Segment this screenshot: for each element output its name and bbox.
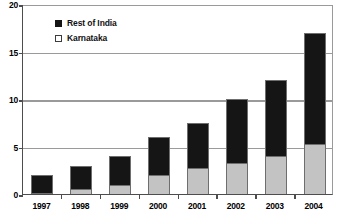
x-tick-mark-4 — [178, 195, 180, 199]
outlined-square-icon — [55, 35, 62, 42]
bar-2002 — [226, 99, 248, 194]
bar-segment-rest-of-india-2001 — [187, 123, 209, 169]
stacked-bar-chart: 20151050 Rest of IndiaKarnataka 19971998… — [0, 0, 340, 221]
bar-2001 — [187, 123, 209, 194]
legend-label: Karnataka — [67, 33, 107, 43]
y-tick-label-20: 20 — [0, 0, 18, 10]
gridline-15 — [23, 53, 332, 55]
bar-segment-karnataka-1997 — [31, 193, 53, 194]
y-tick-mark-20 — [19, 5, 23, 7]
y-tick-mark-15 — [19, 53, 23, 55]
x-tick-mark-5 — [216, 195, 218, 199]
legend: Rest of IndiaKarnataka — [55, 18, 117, 43]
x-tick-label-2004: 2004 — [294, 201, 334, 211]
x-tick-label-2000: 2000 — [138, 201, 178, 211]
x-tick-mark-7 — [294, 195, 296, 199]
x-tick-mark-2 — [100, 195, 102, 199]
bar-segment-rest-of-india-2004 — [304, 33, 326, 144]
bar-segment-karnataka-2003 — [265, 156, 287, 194]
plot-area: Rest of IndiaKarnataka — [22, 5, 333, 195]
bar-1997 — [31, 175, 53, 194]
bar-segment-karnataka-2001 — [187, 168, 209, 194]
y-tick-label-15: 15 — [0, 48, 18, 58]
legend-label: Rest of India — [67, 18, 117, 28]
x-tick-label-1999: 1999 — [99, 201, 139, 211]
bar-2003 — [265, 80, 287, 194]
x-tick-mark-6 — [255, 195, 257, 199]
filled-square-icon — [55, 20, 62, 27]
bar-segment-rest-of-india-2002 — [226, 99, 248, 163]
x-tick-label-2003: 2003 — [255, 201, 295, 211]
bar-segment-rest-of-india-1997 — [31, 175, 53, 193]
bar-segment-karnataka-2000 — [148, 175, 170, 194]
bar-segment-rest-of-india-2003 — [265, 80, 287, 156]
x-tick-label-2002: 2002 — [216, 201, 256, 211]
x-tick-mark-3 — [139, 195, 141, 199]
legend-item-rest-of-india: Rest of India — [55, 18, 117, 28]
y-tick-mark-10 — [19, 100, 23, 102]
bar-segment-karnataka-1999 — [109, 185, 131, 195]
legend-item-karnataka: Karnataka — [55, 33, 117, 43]
bar-2004 — [304, 33, 326, 194]
y-tick-label-10: 10 — [0, 95, 18, 105]
bar-segment-karnataka-1998 — [70, 189, 92, 194]
bar-segment-rest-of-india-2000 — [148, 137, 170, 175]
bar-segment-rest-of-india-1998 — [70, 166, 92, 190]
bar-segment-karnataka-2002 — [226, 163, 248, 194]
y-tick-label-0: 0 — [0, 190, 18, 200]
y-tick-mark-5 — [19, 148, 23, 150]
bar-2000 — [148, 137, 170, 194]
bar-1999 — [109, 156, 131, 194]
y-tick-mark-0 — [19, 195, 23, 197]
x-tick-label-2001: 2001 — [177, 201, 217, 211]
bar-1998 — [70, 166, 92, 195]
y-tick-label-5: 5 — [0, 143, 18, 153]
x-tick-mark-1 — [61, 195, 63, 199]
x-tick-label-1998: 1998 — [60, 201, 100, 211]
bar-segment-karnataka-2004 — [304, 144, 326, 194]
x-tick-label-1997: 1997 — [21, 201, 61, 211]
bar-segment-rest-of-india-1999 — [109, 156, 131, 185]
